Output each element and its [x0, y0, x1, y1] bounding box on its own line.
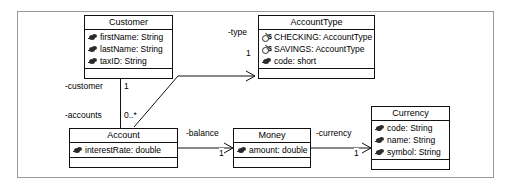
attribute-row[interactable]: $ CHECKING: AccountType	[259, 31, 374, 43]
class-box-currency[interactable]: Currency code: String name: String symbo…	[371, 106, 450, 170]
attribute-row[interactable]: lastName: String	[85, 43, 172, 55]
static-attribute-icon: $	[262, 45, 272, 54]
private-attribute-icon	[88, 57, 98, 66]
class-operations-customer	[85, 69, 172, 77]
attribute-row[interactable]: taxID: String	[85, 55, 172, 67]
diagram-canvas: -customer 1 -accounts 0..* -type 1 -bala…	[0, 0, 511, 190]
attribute-row[interactable]: code: short	[259, 55, 374, 67]
attribute-label: lastName: String	[98, 43, 163, 55]
attribute-label: taxID: String	[98, 55, 147, 67]
association-role-type: -type	[228, 27, 247, 37]
private-attribute-icon	[375, 136, 385, 145]
private-attribute-icon	[375, 124, 385, 133]
association-role-currency: -currency	[316, 128, 351, 138]
attribute-label: code: short	[272, 55, 316, 67]
class-attributes-account: interestRate: double	[70, 143, 177, 158]
private-attribute-icon	[73, 146, 83, 155]
class-box-money[interactable]: Money amount: double	[233, 128, 311, 168]
class-operations-currency	[372, 160, 449, 168]
attribute-label: name: String	[385, 134, 435, 146]
association-multiplicity-customer: 1	[124, 81, 129, 91]
attribute-row[interactable]: symbol: String	[372, 146, 449, 158]
association-multiplicity-type: 1	[246, 48, 251, 58]
class-attributes-customer: firstName: String lastName: String taxID…	[85, 30, 172, 69]
class-name-money: Money	[234, 129, 310, 143]
association-role-balance: -balance	[186, 128, 219, 138]
class-box-account[interactable]: Account interestRate: double	[69, 128, 178, 168]
class-name-customer: Customer	[85, 16, 172, 30]
attribute-label: SAVINGS: AccountType	[272, 43, 365, 55]
class-attributes-currency: code: String name: String symbol: String	[372, 121, 449, 160]
attribute-row[interactable]: $ SAVINGS: AccountType	[259, 43, 374, 55]
class-operations-accounttype	[259, 69, 374, 77]
attribute-row[interactable]: amount: double	[234, 144, 310, 156]
association-multiplicity-currency: 1	[354, 148, 359, 158]
association-multiplicity-balance: 1	[219, 148, 224, 158]
private-attribute-icon	[262, 57, 272, 66]
attribute-label: amount: double	[247, 144, 308, 156]
attribute-label: symbol: String	[385, 146, 441, 158]
association-role-accounts: -accounts	[65, 110, 102, 120]
attribute-label: CHECKING: AccountType	[272, 31, 372, 43]
attribute-row[interactable]: name: String	[372, 134, 449, 146]
association-line-customer-account	[120, 78, 121, 128]
class-name-currency: Currency	[372, 107, 449, 121]
private-attribute-icon	[237, 146, 247, 155]
association-line-money-currency	[310, 140, 374, 152]
class-name-accounttype: AccountType	[259, 16, 374, 30]
association-role-customer: -customer	[65, 81, 103, 91]
class-operations-money	[234, 158, 310, 166]
class-operations-account	[70, 158, 177, 166]
private-attribute-icon	[375, 148, 385, 157]
private-attribute-icon	[88, 33, 98, 42]
attribute-label: firstName: String	[98, 31, 163, 43]
class-box-customer[interactable]: Customer firstName: String lastName: Str…	[84, 15, 173, 79]
static-attribute-icon: $	[262, 33, 272, 42]
private-attribute-icon	[88, 45, 98, 54]
attribute-label: interestRate: double	[83, 144, 161, 156]
class-attributes-money: amount: double	[234, 143, 310, 158]
attribute-label: code: String	[385, 122, 432, 134]
association-multiplicity-accounts: 0..*	[124, 110, 137, 120]
class-attributes-accounttype: $ CHECKING: AccountType $ SAVINGS: Accou…	[259, 30, 374, 69]
attribute-row[interactable]: firstName: String	[85, 31, 172, 43]
attribute-row[interactable]: interestRate: double	[70, 144, 177, 156]
association-line-account-money	[178, 140, 236, 152]
attribute-row[interactable]: code: String	[372, 122, 449, 134]
class-box-accounttype[interactable]: AccountType $ CHECKING: AccountType $ SA…	[258, 15, 375, 79]
class-name-account: Account	[70, 129, 177, 143]
